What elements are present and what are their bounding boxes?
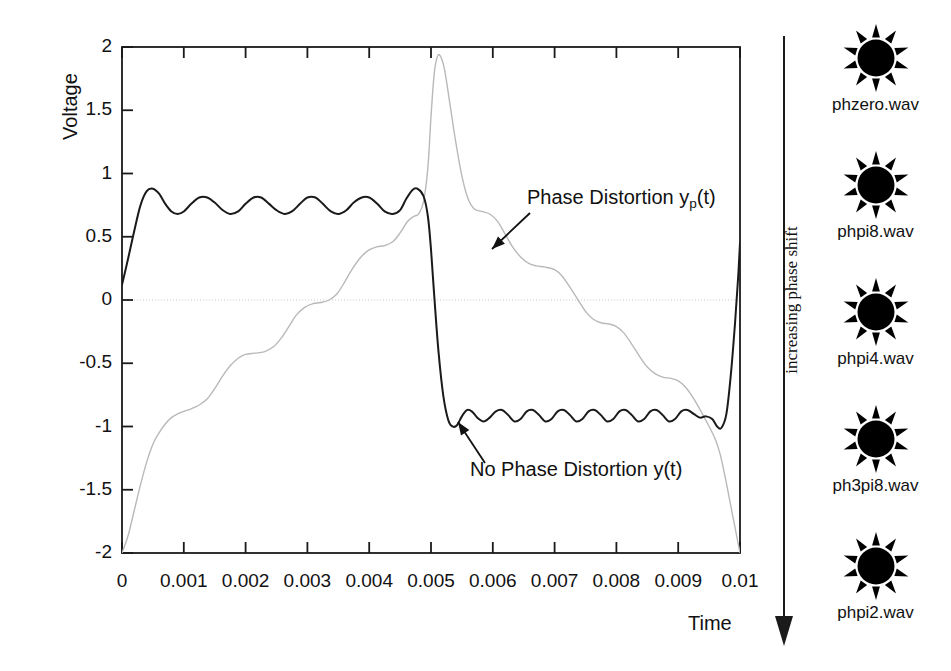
- sound-burst-icon[interactable]: [840, 276, 912, 348]
- sound-burst-icon[interactable]: [840, 403, 912, 475]
- sound-file-item[interactable]: phpi4.wav: [800, 276, 951, 369]
- x-axis-label: Time: [688, 612, 732, 635]
- sound-file-label: phpi2.wav: [800, 603, 951, 623]
- y-tick-label: -0.5: [26, 351, 112, 373]
- sound-burst-icon[interactable]: [840, 22, 912, 94]
- sound-file-label: phpi8.wav: [800, 222, 951, 242]
- sound-file-label: phzero.wav: [800, 95, 951, 115]
- y-axis-label: Voltage: [59, 47, 82, 167]
- annotation-phase-distortion-tail: (t): [697, 186, 716, 208]
- y-tick-label: 0: [26, 288, 112, 310]
- phase-distortion-figure: 21.510.50-0.5-1-1.5-200.0010.0020.0030.0…: [0, 0, 951, 671]
- annotation-phase-distortion-text: Phase Distortion y: [527, 186, 689, 208]
- sound-file-label: phpi4.wav: [800, 349, 951, 369]
- sound-burst-icon[interactable]: [840, 149, 912, 221]
- sound-file-item[interactable]: ph3pi8.wav: [800, 403, 951, 496]
- increasing-phase-shift-arrow-group: increasing phase shift: [744, 0, 804, 671]
- increasing-phase-shift-label: increasing phase shift: [782, 190, 802, 410]
- trace-no-phase-distortion: [122, 188, 740, 429]
- annotation-no-phase-distortion-text: No Phase Distortion y(t): [470, 458, 682, 480]
- annotation-no-phase-distortion: No Phase Distortion y(t): [470, 458, 682, 481]
- y-tick-label: -2: [26, 541, 112, 563]
- sound-burst-icon[interactable]: [840, 530, 912, 602]
- annotation-phase-distortion-subscript: p: [689, 196, 697, 211]
- sound-file-item[interactable]: phpi8.wav: [800, 149, 951, 242]
- y-tick-label: -1: [26, 415, 112, 437]
- sound-file-label: ph3pi8.wav: [800, 476, 951, 496]
- sound-file-list: phzero.wav phpi8.wav phpi4.wav ph3pi8.wa…: [800, 0, 951, 671]
- sound-file-item[interactable]: phpi2.wav: [800, 530, 951, 623]
- y-tick-label: -1.5: [26, 478, 112, 500]
- annotation-phase-distortion: Phase Distortion yp(t): [527, 186, 716, 211]
- annotation-arrowhead-no-phase-distortion: [458, 422, 469, 436]
- sound-file-item[interactable]: phzero.wav: [800, 22, 951, 115]
- y-tick-label: 0.5: [26, 225, 112, 247]
